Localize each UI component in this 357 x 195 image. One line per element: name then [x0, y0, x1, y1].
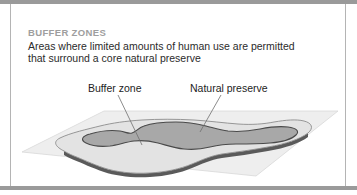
isometric-island-diagram	[0, 0, 357, 195]
buffer-zones-figure: BUFFER ZONES Areas where limited amounts…	[0, 0, 357, 195]
